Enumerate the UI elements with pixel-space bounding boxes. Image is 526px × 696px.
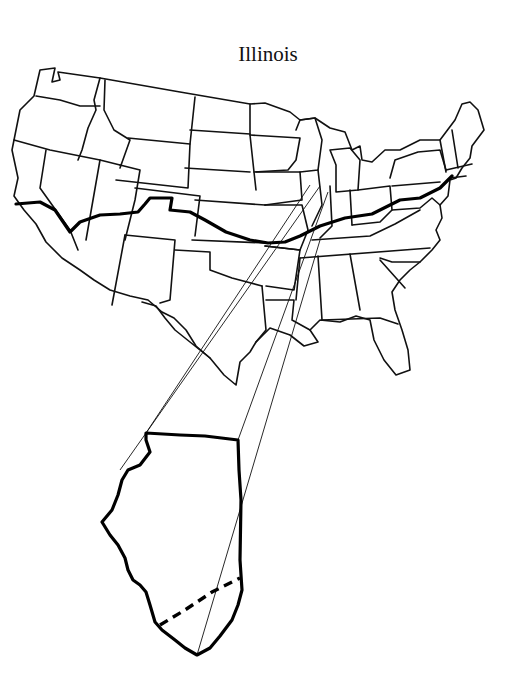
state-borders	[14, 78, 472, 358]
us-outline	[12, 68, 484, 385]
us-map-diagram	[0, 0, 526, 696]
illinois-dashed-division	[160, 578, 240, 625]
